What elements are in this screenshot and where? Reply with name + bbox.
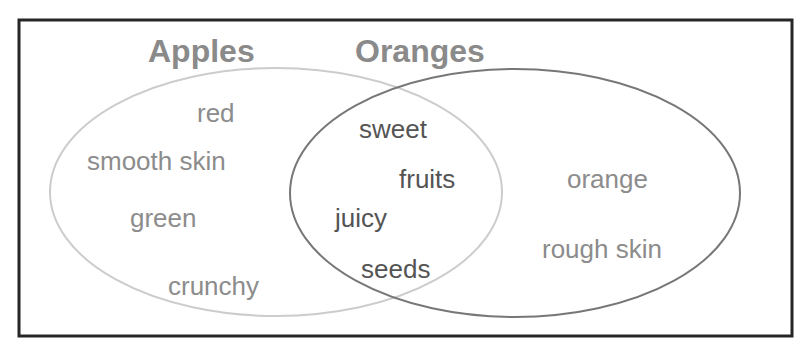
- venn-diagram: Apples Oranges red smooth skin green cru…: [0, 0, 812, 350]
- shared-items: sweet fruits juicy seeds: [334, 114, 455, 284]
- apples-item: crunchy: [168, 271, 259, 301]
- apples-only-items: red smooth skin green crunchy: [87, 98, 259, 301]
- oranges-set-title: Oranges: [355, 33, 485, 69]
- apples-item: green: [130, 203, 197, 233]
- apples-item: red: [197, 98, 235, 128]
- oranges-only-items: orange rough skin: [542, 164, 662, 264]
- apples-item: smooth skin: [87, 146, 226, 176]
- shared-item: fruits: [399, 164, 455, 194]
- oranges-item: rough skin: [542, 234, 662, 264]
- shared-item: juicy: [334, 203, 387, 233]
- apples-set-title: Apples: [148, 33, 255, 69]
- shared-item: sweet: [359, 114, 428, 144]
- oranges-set-ellipse: [290, 69, 740, 317]
- oranges-item: orange: [567, 164, 648, 194]
- shared-item: seeds: [361, 254, 430, 284]
